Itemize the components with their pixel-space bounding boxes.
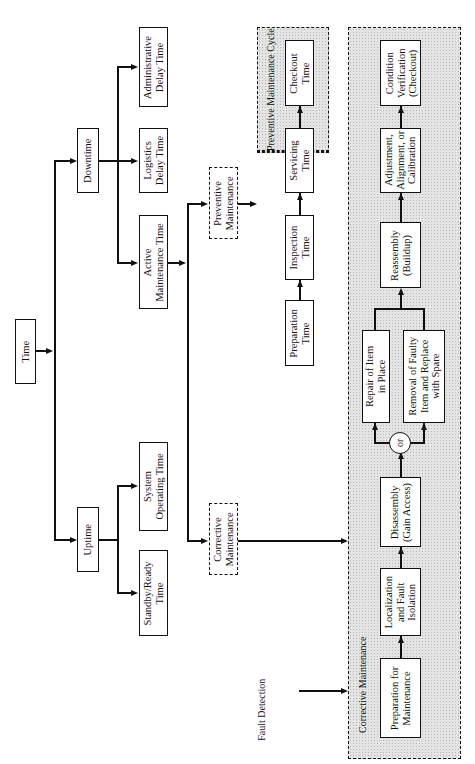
preparation-for-maintenance-box: Preparation for Maintenance xyxy=(380,658,421,738)
arrow-icon xyxy=(131,64,138,70)
condition-verification-box: Condition Verification (Checkout) xyxy=(380,40,421,106)
system-operating-time-label: System Operating Time xyxy=(142,453,165,519)
connector xyxy=(187,203,189,542)
arrow-icon xyxy=(297,106,303,113)
arrow-icon xyxy=(398,636,404,643)
connector xyxy=(117,160,131,162)
arrow-icon xyxy=(398,106,404,113)
preparation-for-maintenance-label: Preparation for Maintenance xyxy=(389,666,412,729)
inspection-time-label: Inspection Time xyxy=(288,226,311,270)
corrective-maintenance-box: Corrective Maintenance xyxy=(209,503,238,575)
standby-ready-time-box: Standby/Ready Time xyxy=(139,550,168,636)
standby-ready-time-label: Standby/Ready Time xyxy=(142,561,165,625)
logistics-delay-time-label: Logistics Delay Time xyxy=(142,136,165,185)
preventive-maintenance-box: Preventive Maintenance xyxy=(209,167,238,239)
arrow-icon xyxy=(131,260,138,266)
connector xyxy=(374,308,425,310)
arrow-icon xyxy=(398,193,404,200)
arrow-icon xyxy=(398,547,404,554)
arrow-icon xyxy=(201,201,208,207)
checkout-time-box: Checkout Time xyxy=(285,40,314,106)
servicing-time-box: Servicing Time xyxy=(285,128,314,193)
adjustment-alignment-calibration-box: Adjustment, Alignment, or Calibration xyxy=(380,128,421,193)
disassembly-label: Disassembly (Gain Access) xyxy=(389,482,412,541)
connector xyxy=(117,592,131,594)
connector xyxy=(299,690,342,692)
connector xyxy=(117,485,131,487)
removal-replace-spare-label: Removal of Faulty Item and Replace with … xyxy=(407,337,442,416)
time-box: Time xyxy=(15,319,36,384)
repair-item-in-place-label: Repair of Item in Place xyxy=(365,346,388,407)
connector xyxy=(238,540,342,542)
administrative-delay-time-label: Administrative Delay Time xyxy=(142,36,165,99)
fault-detection-label: Fault Detection xyxy=(255,660,269,760)
arrow-icon xyxy=(70,158,77,164)
localization-fault-isolation-box: Localization and Fault Isolation xyxy=(380,568,421,636)
preventive-maintenance-label: Preventive Maintenance xyxy=(212,176,235,230)
arrow-icon xyxy=(131,158,138,164)
adjustment-alignment-calibration-label: Adjustment, Alignment, or Calibration xyxy=(383,131,418,190)
connector xyxy=(99,160,118,162)
uptime-label: Uptime xyxy=(82,524,94,556)
system-operating-time-box: System Operating Time xyxy=(139,442,168,531)
arrow-icon xyxy=(46,348,53,354)
connector xyxy=(117,262,131,264)
connector xyxy=(117,66,131,68)
connector xyxy=(54,160,70,162)
reassembly-box: Reassembly (Buildup) xyxy=(380,222,421,288)
arrow-icon xyxy=(179,260,186,266)
corrective-maintenance-label: Corrective Maintenance xyxy=(212,512,235,566)
connector xyxy=(117,66,119,264)
localization-fault-isolation-label: Localization and Fault Isolation xyxy=(383,576,418,628)
uptime-box: Uptime xyxy=(77,507,99,572)
inspection-time-box: Inspection Time xyxy=(285,215,314,280)
active-maintenance-time-box: Active Maintenance Time xyxy=(139,215,168,309)
arrow-icon xyxy=(250,201,257,207)
connector xyxy=(187,540,201,542)
arrow-icon xyxy=(131,483,138,489)
preventive-cycle-title: Preventive Maintenance Cycle xyxy=(263,30,277,150)
corrective-cycle-title: Corrective Maintenance xyxy=(356,620,370,750)
connector xyxy=(54,160,56,541)
arrow-icon xyxy=(341,688,348,694)
condition-verification-label: Condition Verification (Checkout) xyxy=(383,48,418,98)
arrow-icon xyxy=(201,538,208,544)
arrow-icon xyxy=(297,280,303,287)
connector xyxy=(99,539,118,541)
arrow-icon xyxy=(297,193,303,200)
connector xyxy=(423,308,425,330)
connector xyxy=(117,485,119,593)
disassembly-box: Disassembly (Gain Access) xyxy=(380,477,421,547)
connector xyxy=(374,308,376,330)
preparation-time-label: Preparation Time xyxy=(288,309,311,357)
servicing-time-label: Servicing Time xyxy=(288,140,311,180)
downtime-label: Downtime xyxy=(82,138,94,182)
connector xyxy=(375,442,389,444)
arrow-icon xyxy=(70,537,77,543)
arrow-icon xyxy=(421,423,427,430)
logistics-delay-time-box: Logistics Delay Time xyxy=(139,128,168,193)
repair-item-in-place-box: Repair of Item in Place xyxy=(362,330,390,423)
administrative-delay-time-box: Administrative Delay Time xyxy=(139,27,168,107)
arrow-icon xyxy=(372,423,378,430)
checkout-time-label: Checkout Time xyxy=(288,53,311,93)
or-node: or xyxy=(389,432,411,454)
downtime-box: Downtime xyxy=(77,128,99,193)
removal-replace-spare-box: Removal of Faulty Item and Replace with … xyxy=(403,330,445,423)
connector xyxy=(54,539,70,541)
connector xyxy=(187,203,201,205)
arrow-icon xyxy=(341,538,348,544)
arrow-icon xyxy=(131,590,138,596)
active-maintenance-time-label: Active Maintenance Time xyxy=(142,223,165,301)
time-label: Time xyxy=(20,341,32,363)
arrow-icon xyxy=(398,288,404,295)
preparation-time-box: Preparation Time xyxy=(285,300,314,366)
reassembly-label: Reassembly (Buildup) xyxy=(389,230,412,281)
